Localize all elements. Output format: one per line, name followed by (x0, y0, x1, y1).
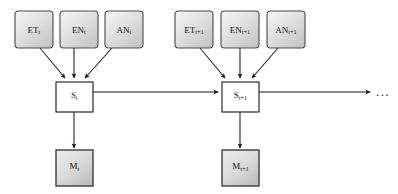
node-et-t[interactable]: ETt (15, 11, 53, 48)
edge-an-t-to-s-t (85, 48, 112, 78)
node-s-t1[interactable]: St+1 (222, 82, 259, 112)
node-m-t[interactable]: Mt (56, 150, 93, 186)
diagram-canvas: ETt ENt ANt St (0, 0, 398, 194)
slice-t: ETt ENt ANt St (15, 11, 143, 186)
node-en-t[interactable]: ENt (60, 11, 98, 48)
node-en-t1[interactable]: ENt+1 (221, 11, 259, 48)
node-et-t1[interactable]: ETt+1 (175, 11, 213, 48)
continuation-ellipsis: ... (376, 84, 390, 99)
slice-t-plus-1: ETt+1 ENt+1 ANt+1 St+1 (175, 11, 305, 186)
edge-et-t-to-s-t (40, 48, 65, 78)
node-an-t1[interactable]: ANt+1 (267, 11, 305, 48)
edge-et-t1-to-s-t1 (200, 48, 225, 78)
edge-an-t1-to-s-t1 (252, 48, 278, 78)
node-m-t1[interactable]: Mt+1 (222, 150, 259, 186)
node-an-t[interactable]: ANt (105, 11, 143, 48)
temporal-model-diagram: ETt ENt ANt St (0, 0, 398, 194)
node-s-t[interactable]: St (56, 82, 93, 112)
